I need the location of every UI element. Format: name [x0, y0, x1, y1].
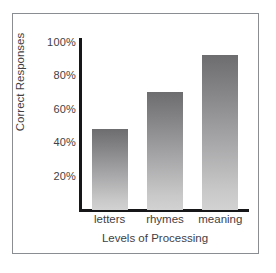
- y-axis-tick-label: 40%: [30, 137, 76, 148]
- x-axis-title: Levels of Processing: [60, 232, 250, 244]
- bar: [92, 129, 128, 210]
- x-axis-tick-label: meaning: [180, 214, 260, 226]
- y-axis-tick-label: 100%: [30, 37, 76, 48]
- plot-area: [82, 38, 248, 210]
- bar: [147, 92, 183, 210]
- figure: Correct Responses 100%80%60%40%20% lette…: [0, 0, 276, 273]
- y-axis-tick-label: 20%: [30, 171, 76, 182]
- y-axis-tick-label: 60%: [30, 104, 76, 115]
- y-axis-tick-label: 80%: [30, 70, 76, 81]
- y-axis-title: Correct Responses: [14, 22, 26, 142]
- bar: [202, 55, 238, 210]
